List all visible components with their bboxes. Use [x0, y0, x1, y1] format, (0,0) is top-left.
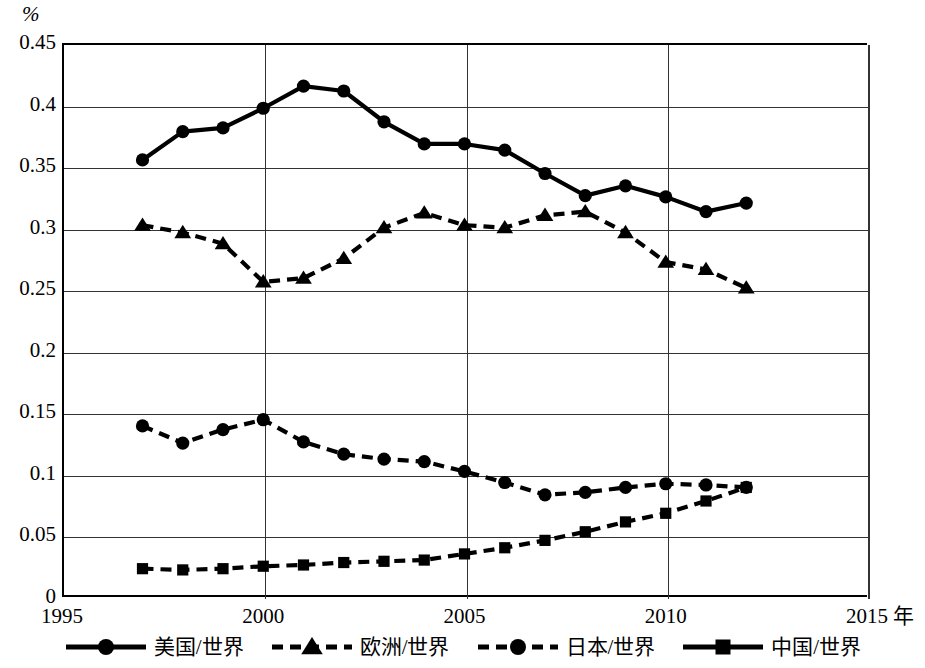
x-axis-tick-label: 2000: [223, 606, 303, 627]
x-axis-tick-label: 2010: [626, 606, 706, 627]
series-marker: [419, 554, 430, 565]
series-marker: [217, 563, 228, 574]
legend-item[interactable]: 欧洲/世界: [270, 636, 450, 658]
series-line: [143, 86, 747, 212]
line-chart: % 00.050.10.150.20.250.30.350.40.45 1995…: [0, 0, 925, 668]
series-line: [143, 212, 747, 288]
series-marker: [176, 125, 189, 138]
series-marker: [134, 217, 151, 230]
series-marker: [337, 448, 350, 461]
series-marker: [660, 508, 671, 519]
series-marker: [740, 196, 753, 209]
series-marker: [418, 455, 431, 468]
series-marker: [700, 495, 711, 506]
series-marker: [338, 557, 349, 568]
data-series: [134, 204, 754, 294]
series-marker: [335, 251, 352, 264]
series-marker: [258, 561, 269, 572]
legend-item[interactable]: 美国/世界: [64, 636, 244, 658]
series-marker: [416, 205, 433, 218]
series-marker: [537, 208, 554, 221]
series-marker: [458, 137, 471, 150]
series-marker: [298, 559, 309, 570]
legend-item[interactable]: 日本/世界: [476, 636, 656, 658]
series-marker: [377, 115, 390, 128]
series-marker: [699, 205, 712, 218]
series-marker: [459, 548, 470, 559]
series-marker: [216, 121, 229, 134]
series-marker: [418, 137, 431, 150]
series-marker: [337, 84, 350, 97]
legend-label: 中国/世界: [771, 637, 861, 658]
data-series: [136, 79, 753, 218]
series-marker: [579, 189, 592, 202]
series-marker: [498, 476, 511, 489]
legend-swatch-square-icon: [681, 636, 765, 658]
series-marker: [458, 465, 471, 478]
x-axis-unit-label: 年: [893, 606, 914, 627]
series-marker: [539, 535, 550, 546]
series-marker: [619, 481, 632, 494]
series-marker: [538, 488, 551, 501]
series-marker: [498, 144, 511, 157]
series-marker: [659, 477, 672, 490]
series-marker: [177, 564, 188, 575]
series-marker: [257, 102, 270, 115]
series-marker: [699, 478, 712, 491]
series-marker: [176, 437, 189, 450]
series-marker: [538, 167, 551, 180]
series-marker: [377, 453, 390, 466]
series-marker: [620, 516, 631, 527]
legend-swatch-circle-icon: [476, 636, 560, 658]
data-series: [136, 413, 753, 501]
data-series: [137, 482, 752, 576]
legend-item[interactable]: 中国/世界: [681, 636, 861, 658]
series-marker: [216, 423, 229, 436]
legend-label: 日本/世界: [566, 637, 656, 658]
series-marker: [378, 556, 389, 567]
series-marker: [136, 419, 149, 432]
x-axis-tick-label: 2005: [425, 606, 505, 627]
series-marker: [257, 413, 270, 426]
series-line: [143, 420, 747, 495]
series-marker: [297, 79, 310, 92]
legend-swatch-circle-icon: [64, 636, 148, 658]
chart-legend: 美国/世界欧洲/世界日本/世界中国/世界: [0, 626, 925, 668]
series-marker: [619, 179, 632, 192]
series-marker: [657, 254, 674, 267]
series-line: [143, 487, 747, 569]
series-marker: [136, 153, 149, 166]
series-marker: [580, 526, 591, 537]
series-marker: [137, 563, 148, 574]
legend-label: 美国/世界: [154, 637, 244, 658]
series-marker: [297, 435, 310, 448]
x-axis-tick-label: 1995: [22, 606, 102, 627]
series-marker: [617, 225, 634, 238]
series-marker: [499, 542, 510, 553]
series-marker: [174, 225, 191, 238]
series-marker: [659, 190, 672, 203]
series-marker: [579, 486, 592, 499]
series-layer: [0, 0, 925, 668]
legend-swatch-triangle-icon: [270, 636, 354, 658]
legend-label: 欧洲/世界: [360, 637, 450, 658]
series-marker: [741, 482, 752, 493]
